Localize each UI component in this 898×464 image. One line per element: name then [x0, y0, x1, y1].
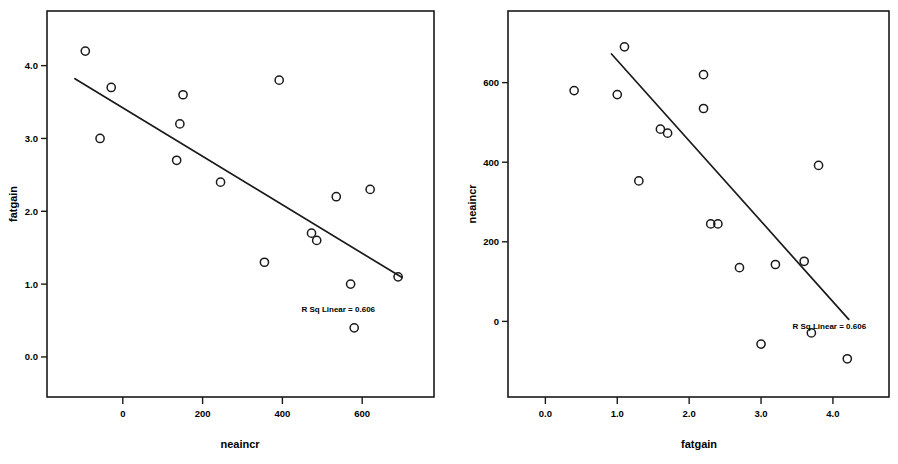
l-x-tick-label: 400 [274, 408, 290, 419]
left-scatterplot-panel: 0.01.02.03.04.0 0200400600 R Sq Linear =… [0, 0, 449, 464]
right-x-axis-ticks: 0.01.02.03.04.0 [539, 397, 840, 419]
l-y-tick-label: 0.0 [25, 351, 38, 362]
l-x-tick-label: 600 [354, 408, 370, 419]
r-x-tick-label: 3.0 [754, 408, 767, 419]
r-y-tick-label: 400 [483, 157, 499, 168]
right-x-axis-title: fatgain [681, 438, 717, 450]
left-r-squared-annotation: R Sq Linear = 0.606 [301, 305, 375, 314]
l-y-tick-label: 4.0 [25, 60, 38, 71]
scatterplot-page: { "page": { "title": "Scatterplot pair: … [0, 0, 898, 464]
left-x-axis-title: neaincr [220, 438, 260, 450]
l-y-tick-label: 1.0 [25, 279, 38, 290]
right-y-axis-title: neaincr [466, 184, 478, 224]
left-y-axis-title: fatgain [7, 186, 19, 222]
r-x-tick-label: 0.0 [539, 408, 552, 419]
right-plot-frame [508, 11, 889, 397]
l-x-tick-label: 0 [120, 408, 125, 419]
left-y-axis-ticks: 0.01.02.03.04.0 [25, 60, 47, 362]
r-y-tick-label: 200 [483, 236, 499, 247]
left-plot-frame [47, 11, 434, 397]
l-y-tick-label: 3.0 [25, 133, 38, 144]
l-y-tick-label: 2.0 [25, 206, 38, 217]
left-chart-svg: 0.01.02.03.04.0 0200400600 R Sq Linear =… [0, 0, 449, 464]
r-y-tick-label: 600 [483, 77, 499, 88]
r-y-tick-label: 0 [494, 316, 499, 327]
l-x-tick-label: 200 [195, 408, 211, 419]
r-x-tick-label: 2.0 [683, 408, 696, 419]
right-chart-svg: 0200400600 0.01.02.03.04.0 R Sq Linear =… [449, 0, 898, 464]
r-x-tick-label: 1.0 [611, 408, 624, 419]
left-x-axis-ticks: 0200400600 [120, 397, 370, 419]
right-y-axis-ticks: 0200400600 [483, 77, 508, 327]
right-r-squared-annotation: R Sq Linear = 0.606 [793, 322, 867, 331]
right-scatterplot-panel: 0200400600 0.01.02.03.04.0 R Sq Linear =… [449, 0, 898, 464]
r-x-tick-label: 4.0 [826, 408, 839, 419]
